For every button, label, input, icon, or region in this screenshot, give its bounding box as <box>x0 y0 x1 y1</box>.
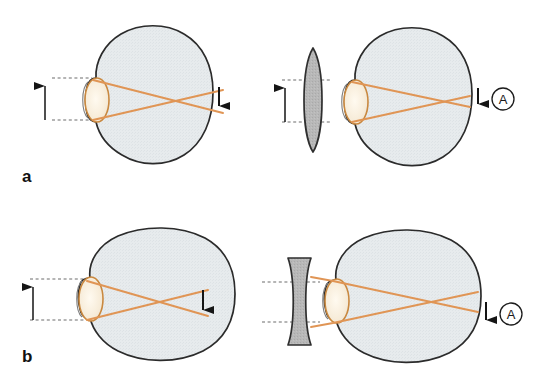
panel-letter-a: a <box>22 167 32 186</box>
crystalline-lens-a-corrected <box>344 80 368 124</box>
panel-letter-b: b <box>22 347 32 366</box>
marker-circle-a-top: A <box>492 88 514 110</box>
marker-circle-a-bottom: A <box>500 303 522 325</box>
marker-letter-bottom: A <box>507 307 516 322</box>
convex-spectacle-lens <box>304 48 322 152</box>
crystalline-lens-b-corrected <box>325 279 349 323</box>
figure-root: A a <box>0 0 534 390</box>
eye-refraction-figure: A a <box>0 0 534 390</box>
marker-letter-top: A <box>499 92 508 107</box>
crystalline-lens-a <box>85 78 109 122</box>
